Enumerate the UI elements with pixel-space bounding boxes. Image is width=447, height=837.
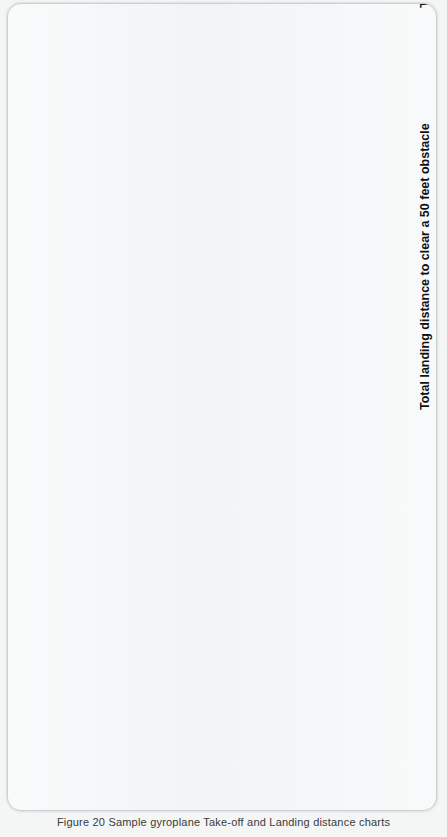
takeoff-chart: Total takeoff distance to clear a 50 fee… — [412, 3, 437, 8]
takeoff-chart-title: Total takeoff distance to clear a 50 fee… — [418, 3, 432, 8]
scanned-chart-sheet: Total takeoff distance to clear a 50 fee… — [7, 3, 437, 811]
figure-caption: Figure 20 Sample gyroplane Take-off and … — [0, 816, 447, 837]
landing-chart-title: Total landing distance to clear a 50 fee… — [418, 18, 432, 410]
landing-chart: Total landing distance to clear a 50 fee… — [412, 18, 437, 410]
